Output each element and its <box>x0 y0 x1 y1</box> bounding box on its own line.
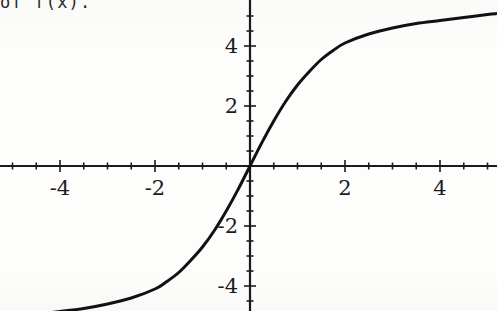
x-tick-label: 2 <box>338 178 351 199</box>
y-tick-label: -4 <box>218 276 238 297</box>
plot-svg <box>0 0 497 311</box>
function-curve <box>1 14 497 311</box>
x-tick-label: 4 <box>433 178 446 199</box>
x-tick-label: -4 <box>50 178 70 199</box>
y-tick-label: 4 <box>225 36 238 57</box>
y-tick-label: -2 <box>218 216 238 237</box>
x-tick-label: -2 <box>145 178 165 199</box>
figure-page: of f(x). -4-224-4-224 <box>0 0 497 311</box>
plot-area: -4-224-4-224 <box>0 0 497 311</box>
y-tick-label: 2 <box>225 96 238 117</box>
